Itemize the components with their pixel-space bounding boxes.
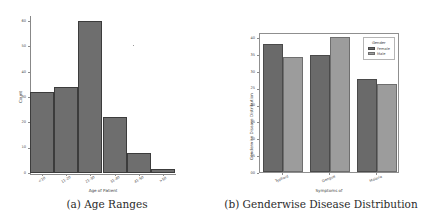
y-tick-label: 10 [20, 145, 26, 149]
panel-age-ranges: Count 0102030405060 <1011-2021-3031-4041… [0, 0, 214, 224]
x-axis-title-a: Age of Patient [89, 188, 118, 193]
bar[interactable] [127, 153, 151, 173]
caption-b: (b) Genderwise Disease Distribution [214, 198, 428, 210]
x-axis-spine-a [30, 174, 176, 175]
bar[interactable] [78, 21, 102, 173]
bar[interactable] [54, 87, 78, 173]
y-tick-mark [257, 72, 259, 73]
y-tick-label: 05 [248, 154, 255, 158]
x-tick-label: Dengue [321, 174, 336, 183]
y-tick-mark [257, 106, 259, 107]
y-tick-mark [257, 156, 259, 157]
y-tick-mark [257, 122, 259, 123]
x-tick-label: <10 [38, 176, 47, 183]
legend-gender: Gender Female Male [363, 37, 396, 60]
x-tick-label: Malaria [369, 175, 383, 184]
legend-label-male: Male [377, 52, 386, 56]
legend-label-female: Female [377, 47, 390, 51]
y-tick-mark [257, 89, 259, 90]
x-tick-label: >50 [159, 176, 168, 183]
y-tick-label: 35 [248, 53, 255, 57]
y-tick-label: 40 [248, 36, 255, 40]
y-tick-mark [257, 55, 259, 56]
y-tick-label: 30 [248, 70, 255, 74]
x-tick-mark [376, 173, 377, 175]
x-axis-title-b: Symptoms of [315, 188, 342, 193]
y-tick-label: 0 [20, 171, 26, 175]
y-tick-label: 50 [20, 44, 26, 48]
bar-male[interactable] [283, 57, 303, 172]
figure-container: Count 0102030405060 <1011-2021-3031-4041… [0, 0, 428, 224]
y-tick-label: 15 [248, 120, 255, 124]
x-tick-label: Typhoid [275, 174, 289, 183]
bar-male[interactable] [330, 37, 350, 172]
legend-item-male[interactable]: Male [368, 52, 391, 56]
bar-female[interactable] [263, 44, 283, 172]
y-tick-label: 20 [248, 103, 255, 107]
bar[interactable] [103, 117, 127, 173]
y-tick-mark [257, 139, 259, 140]
x-tick-label: 21-30 [85, 175, 96, 184]
y-tick-label: 00 [248, 171, 255, 175]
bar[interactable] [30, 92, 54, 173]
legend-title: Gender [368, 41, 391, 45]
plot-area-a [30, 16, 175, 173]
legend-swatch-male [368, 52, 375, 55]
stray-speck [133, 45, 134, 46]
plot-frame-b: Gender Female Male [259, 33, 399, 173]
y-tick-label: 25 [248, 86, 255, 90]
y-tick-label: 20 [20, 120, 26, 124]
x-tick-label: 11-20 [61, 175, 72, 184]
caption-a: (a) Age Ranges [0, 198, 214, 210]
x-tick-label: 31-40 [109, 175, 120, 184]
bar-female[interactable] [310, 55, 330, 172]
y-tick-label: 10 [248, 137, 255, 141]
y-tick-mark [257, 173, 259, 174]
y-tick-label: 40 [20, 70, 26, 74]
legend-item-female[interactable]: Female [368, 47, 391, 51]
bar-male[interactable] [377, 84, 397, 172]
bar-female[interactable] [357, 79, 377, 172]
legend-swatch-female [368, 47, 375, 50]
y-tick-mark [28, 173, 30, 174]
y-tick-label: 60 [20, 19, 26, 23]
x-tick-label: 41-50 [133, 175, 144, 184]
y-tick-label: 30 [20, 95, 26, 99]
y-tick-mark [257, 38, 259, 39]
panel-genderwise-distribution: Gender Female Male Genderwise Disease Di… [214, 0, 428, 224]
bar[interactable] [151, 169, 175, 173]
